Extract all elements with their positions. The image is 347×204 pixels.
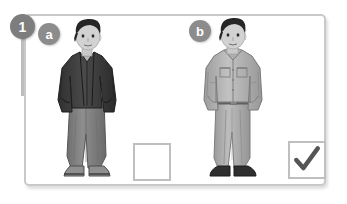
figure-a-shoes xyxy=(64,166,110,176)
figure-a-trousers xyxy=(67,100,106,168)
answer-checkbox-a[interactable] xyxy=(133,143,171,181)
figure-b-trousers xyxy=(214,102,250,168)
option-letter-badge-b: b xyxy=(189,20,211,42)
check-icon xyxy=(290,143,324,177)
exercise-number-badge: 1 xyxy=(10,14,35,39)
figure-b-head xyxy=(219,18,246,54)
answer-checkbox-b[interactable] xyxy=(288,141,326,179)
number-marker-stem xyxy=(21,36,24,96)
figure-b-shirt xyxy=(204,48,262,110)
figure-b-shoes xyxy=(210,166,256,176)
figure-a-head xyxy=(74,19,101,56)
option-letter-badge-a: a xyxy=(38,23,60,45)
